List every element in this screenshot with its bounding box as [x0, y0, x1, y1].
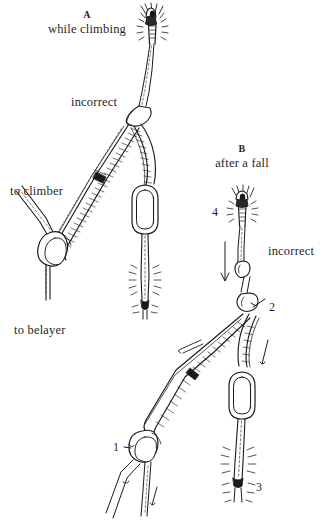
rope-b-lower: [234, 419, 245, 480]
knot-b-upper: [235, 261, 265, 311]
carabiner-a: [132, 185, 158, 234]
figure-artwork: [0, 0, 326, 525]
climbing-anchor-figure: A while climbing incorrect to climber to…: [0, 0, 326, 525]
callout-3-label: 3: [256, 481, 262, 494]
fall-direction-arrow: [221, 242, 229, 281]
sling-b-right: [238, 314, 268, 367]
carabiner-b: [229, 372, 255, 419]
sling-a-right: [131, 124, 156, 186]
rope-b-upper: [238, 226, 245, 262]
callout-1-label: 1: [113, 441, 119, 454]
panel-b-verdict-label: incorrect: [268, 245, 314, 259]
carabiner-a-left: [38, 232, 71, 267]
panel-a-subtitle: while climbing: [26, 23, 148, 37]
panel-b-caption: B: [222, 143, 262, 154]
callout-4-label: 4: [212, 206, 218, 219]
panel-a-artwork: [16, 3, 168, 319]
panel-a-verdict-label: incorrect: [71, 96, 117, 110]
knot-a-upper: [126, 106, 151, 126]
callout-2-label: 2: [269, 301, 275, 314]
panel-b-artwork: [106, 185, 268, 518]
rope-b-tails: [106, 460, 157, 518]
rope-a-upper: [139, 44, 154, 106]
rope-a-lower: [141, 234, 149, 300]
panel-a-caption: A: [62, 9, 112, 20]
to-climber-label: to climber: [10, 185, 63, 199]
carabiner-b-left: [124, 430, 161, 462]
panel-b-subtitle: after a fall: [205, 157, 279, 171]
to-belayer-label: to belayer: [14, 324, 66, 338]
piton-b-top: [227, 185, 258, 226]
